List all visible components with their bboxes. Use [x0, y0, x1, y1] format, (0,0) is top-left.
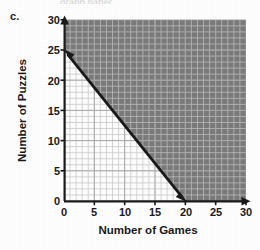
graph-figure: graph paper c. Number of Puzzles Number … [0, 0, 260, 250]
plot-area [0, 0, 260, 250]
